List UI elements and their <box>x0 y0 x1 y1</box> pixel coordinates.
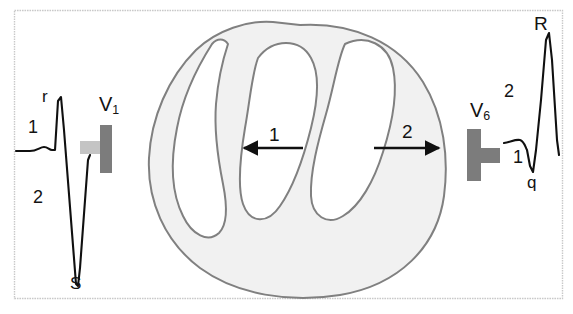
electrode-v6 <box>467 129 500 181</box>
figure-canvas <box>0 0 573 314</box>
ecg-heart-vector-figure: r 1 2 S V1 R 2 1 q V6 1 2 <box>0 0 573 314</box>
v1-deflection-1-label: 1 <box>28 118 38 136</box>
v6-r-wave-label: R <box>534 14 548 33</box>
electrode-v1-stem <box>80 141 102 154</box>
vector-2-label: 2 <box>402 122 413 141</box>
v1-deflection-2-label: 2 <box>33 188 43 206</box>
electrode-v6-stem <box>479 148 500 163</box>
electrode-v6-bar <box>467 129 481 181</box>
electrode-v1-bar <box>100 125 112 173</box>
lead-v6-name: V <box>470 99 483 121</box>
vector-1-label: 1 <box>269 125 280 144</box>
v6-deflection-2-label: 2 <box>504 82 514 100</box>
v6-q-wave-label: q <box>527 174 536 191</box>
lead-v6-label: V6 <box>470 100 490 120</box>
electrode-v1 <box>80 125 112 173</box>
v1-s-wave-label: S <box>70 275 81 292</box>
lead-v1-label: V1 <box>99 94 119 114</box>
lead-v1-name: V <box>99 93 112 115</box>
lead-v6-subscript: 6 <box>483 109 490 123</box>
v6-deflection-1-label: 1 <box>513 148 523 166</box>
v1-r-wave-label: r <box>42 88 48 105</box>
lead-v1-subscript: 1 <box>112 103 119 117</box>
heart-cross-section <box>149 22 446 298</box>
